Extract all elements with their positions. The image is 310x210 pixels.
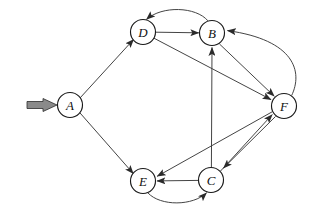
node-F-label: F (279, 99, 289, 114)
node-D-label: D (137, 25, 148, 40)
edge-A-to-E (80, 113, 133, 174)
edge-C-to-B (211, 48, 212, 168)
node-C[interactable]: C (199, 168, 224, 193)
node-F[interactable]: F (272, 94, 297, 119)
edge-D-to-B (156, 32, 199, 33)
node-E[interactable]: E (131, 169, 156, 194)
edge-start-to-A (27, 99, 57, 112)
node-B[interactable]: B (200, 21, 225, 46)
edge-F-to-E (157, 112, 272, 177)
edge-D-to-F (154, 38, 271, 99)
edge-C-to-E (157, 180, 198, 181)
node-A[interactable]: A (58, 93, 83, 118)
node-B-label: B (208, 26, 216, 41)
node-A-label: A (65, 98, 74, 113)
node-E-label: E (138, 174, 147, 189)
edge-B-to-F (220, 44, 275, 96)
node-D[interactable]: D (131, 20, 156, 45)
start-arrow-icon (27, 99, 57, 112)
node-C-label: C (207, 173, 216, 188)
directed-graph-diagram: A B C D E F (0, 0, 310, 210)
edge-A-to-D (80, 39, 133, 97)
edge-B-to-D (147, 10, 209, 21)
nodes-layer: A B C D E F (58, 20, 297, 194)
edge-F-to-B (228, 31, 296, 96)
edge-E-to-C (148, 193, 207, 203)
